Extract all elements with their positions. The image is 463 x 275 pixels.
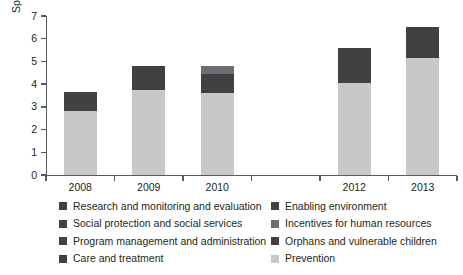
bar-2009 [132,16,165,175]
legend-item: Orphans and vulnerable children [271,233,461,249]
legend-swatch-icon [59,220,67,228]
legend-label: Program management and administration [73,236,266,247]
bar-segment [338,48,371,83]
bar-2010 [201,16,234,175]
legend-column-right: Enabling environmentIncentives for human… [271,198,461,268]
legend-label: Care and treatment [73,253,163,264]
x-tick [45,176,46,181]
bar-segment [338,83,371,175]
bar-segment [64,92,97,111]
bars-layer [0,16,463,175]
legend-item: Enabling environment [271,198,461,214]
legend-column-left: Research and monitoring and evaluationSo… [59,198,269,268]
legend-swatch-icon [271,255,279,263]
x-tick-label: 2008 [50,182,110,193]
bar-segment [406,58,439,175]
legend-swatch-icon [59,202,67,210]
legend-swatch-icon [271,237,279,245]
legend-swatch-icon [59,255,67,263]
bar-segment [132,90,165,175]
legend-swatch-icon [59,237,67,245]
legend-swatch-icon [271,202,279,210]
x-tick-label: 2009 [119,182,179,193]
bar-segment [201,74,234,93]
legend-item: Social protection and social services [59,216,269,232]
bar-segment [406,27,439,58]
legend-label: Research and monitoring and evaluation [73,201,262,212]
bar-2013 [406,16,439,175]
bar-segment [201,66,234,74]
bar-segment [201,93,234,175]
chart-figure: Spending (US$, millions) 01234567 200820… [0,0,463,275]
x-tick [251,176,252,181]
legend-label: Prevention [285,253,335,264]
x-tick-label: 2013 [393,182,453,193]
legend-item: Research and monitoring and evaluation [59,198,269,214]
x-tick [114,176,115,181]
legend-item: Incentives for human resources [271,216,461,232]
x-tick [182,176,183,181]
legend-label: Enabling environment [285,201,387,212]
bar-segment [64,111,97,175]
chart-legend: Research and monitoring and evaluationSo… [0,198,463,275]
legend-item: Care and treatment [59,251,269,267]
bar-2012 [338,16,371,175]
legend-swatch-icon [271,220,279,228]
bar-segment [132,66,165,90]
bar-2008 [64,16,97,175]
legend-item: Prevention [271,251,461,267]
x-tick [388,176,389,181]
legend-label: Social protection and social services [73,218,242,229]
legend-label: Orphans and vulnerable children [285,236,437,247]
x-tick-label: 2010 [187,182,247,193]
x-tick [456,176,457,181]
x-tick-label: 2012 [324,182,384,193]
x-tick [319,176,320,181]
legend-label: Incentives for human resources [285,218,432,229]
legend-item: Program management and administration [59,233,269,249]
plot-area: Spending (US$, millions) 01234567 200820… [0,0,463,196]
